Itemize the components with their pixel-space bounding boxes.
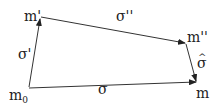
node-m0: m0 [9,87,28,105]
label-sigma-dprime: σ'' [116,8,133,24]
label-sigma: σ [98,81,108,97]
node-m-prime: m' [24,8,41,24]
label-sigma-prime: σ' [18,46,31,62]
node-m0-subscript: 0 [22,95,28,105]
commutative-diagram: m' m'' m m0 σ' σ'' σ σ ^ [0,0,220,109]
label-sigma-hat-accent: ^ [198,51,206,62]
node-m: m [196,85,209,101]
edge-sigma-dprime [41,17,185,43]
node-m-dprime: m'' [187,29,208,45]
edge-sigma-hat [186,44,196,81]
edge-sigma [29,82,196,88]
node-m0-base: m [9,87,22,103]
